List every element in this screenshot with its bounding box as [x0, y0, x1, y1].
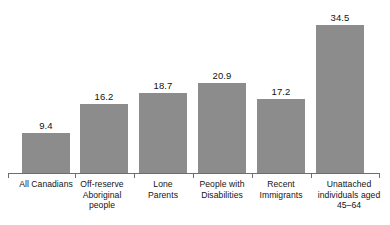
bar-rect: [316, 25, 364, 173]
category-label-line: Aboriginal: [69, 190, 135, 201]
category-label-line: Lone: [132, 179, 194, 190]
bar-value-label: 34.5: [331, 12, 350, 23]
category-label-recent-immigrants: Recent Immigrants: [249, 179, 313, 200]
axis-tick: [75, 174, 76, 178]
bar-column: 9.4: [22, 120, 70, 173]
axis-tick: [193, 174, 194, 178]
axis-tick: [134, 174, 135, 178]
bar-slot: 34.5: [316, 0, 364, 173]
bar-value-label: 9.4: [39, 120, 53, 131]
category-label-line: Recent: [249, 179, 313, 190]
bar-column: 17.2: [257, 86, 305, 173]
axis-tick: [379, 174, 380, 178]
bar-value-label: 17.2: [272, 86, 291, 97]
bar-slot: 18.7: [139, 0, 187, 173]
bar-rect: [22, 133, 70, 173]
bar-column: 18.7: [139, 80, 187, 173]
bar-slot: 9.4: [22, 0, 70, 173]
category-label-off-reserve-aboriginal-people: Off-reserve Aboriginal people: [69, 179, 135, 211]
bar-rect: [257, 99, 305, 173]
bar-chart: 9.4 16.2 18.7 20.9 17.2: [0, 0, 390, 225]
category-label-lone-parents: Lone Parents: [132, 179, 194, 200]
bar-value-label: 18.7: [154, 80, 173, 91]
bar-value-label: 16.2: [95, 91, 114, 102]
plot-area: 9.4 16.2 18.7 20.9 17.2: [0, 0, 390, 173]
category-label-line: Immigrants: [249, 190, 313, 201]
bar-column: 34.5: [316, 12, 364, 173]
category-label-line: Parents: [132, 190, 194, 201]
axis-tick: [252, 174, 253, 178]
bar-slot: 16.2: [80, 0, 128, 173]
category-label-line: People with: [186, 179, 258, 190]
axis-tick: [8, 174, 9, 178]
bar-slot: 20.9: [198, 0, 246, 173]
bar-rect: [80, 104, 128, 174]
bar-rect: [198, 83, 246, 173]
category-label-line: Off-reserve: [69, 179, 135, 190]
category-label-unattached-individuals: Unattached individuals aged 45–64: [309, 179, 389, 211]
category-label-line: individuals aged: [309, 190, 389, 201]
x-axis-line: [8, 173, 380, 174]
category-label-line: Disabilities: [186, 190, 258, 201]
bar-value-label: 20.9: [213, 70, 232, 81]
bar-rect: [139, 93, 187, 173]
bar-column: 16.2: [80, 91, 128, 174]
category-axis-labels: All Canadians Off-reserve Aboriginal peo…: [0, 179, 390, 225]
category-label-line: 45–64: [309, 200, 389, 211]
axis-tick: [311, 174, 312, 178]
bar-slot: 17.2: [257, 0, 305, 173]
category-label-line: Unattached: [309, 179, 389, 190]
category-label-people-with-disabilities: People with Disabilities: [186, 179, 258, 200]
category-label-line: people: [69, 200, 135, 211]
bar-column: 20.9: [198, 70, 246, 173]
